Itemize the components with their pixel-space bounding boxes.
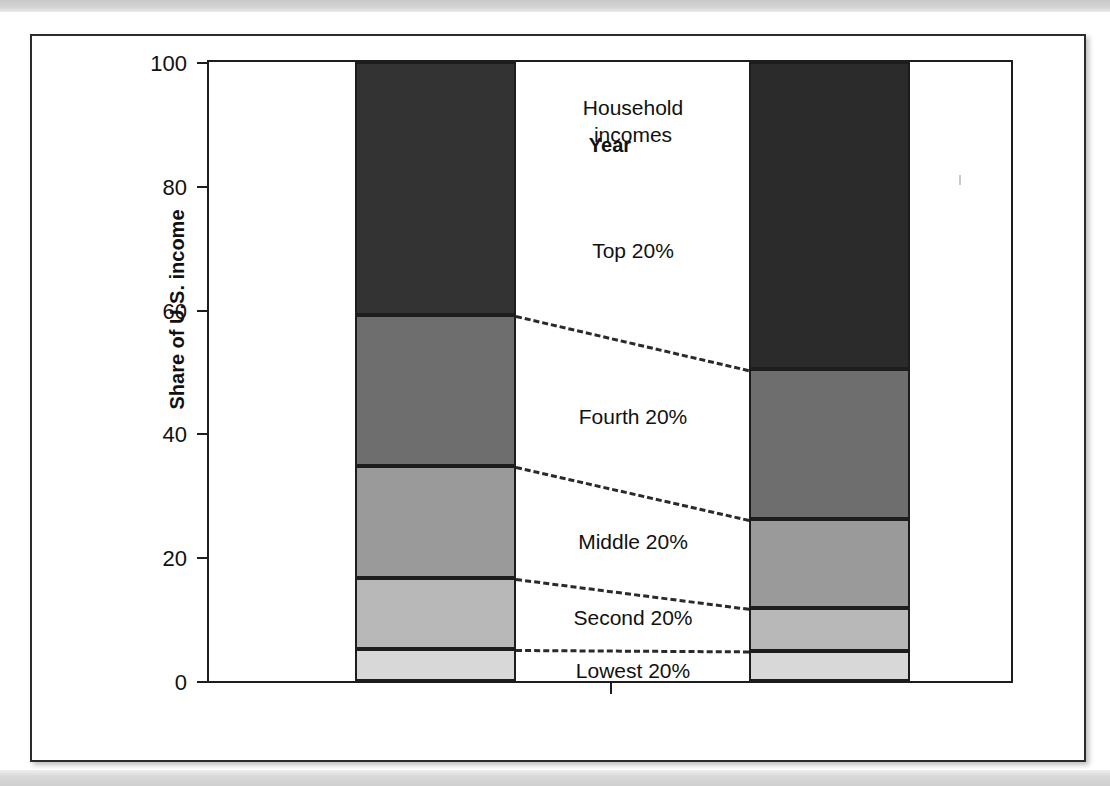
y-tick-label-0: 0 (175, 670, 187, 696)
bar-1980-segment-lowest20[interactable] (355, 649, 516, 681)
y-tick-label-100: 100 (150, 51, 187, 77)
bar-2011-segment-lowest20[interactable] (749, 651, 910, 681)
y-tick-label-40: 40 (163, 422, 187, 448)
connector-top20-boundary (516, 315, 749, 372)
y-tick-60: 60 (197, 310, 209, 312)
bar-1980-segment-middle20[interactable] (355, 466, 516, 578)
band-label-middle20: Middle 20% (578, 529, 688, 556)
bar-2011-segment-top20[interactable] (749, 62, 910, 369)
y-tick-40: 40 (197, 433, 209, 435)
band-label-lowest20: Lowest 20% (576, 658, 690, 685)
figure-container: 100 80 60 40 20 0 Share of U.S. income 1… (30, 34, 1086, 762)
bar-1980-segment-second20[interactable] (355, 578, 516, 649)
y-tick-20: 20 (197, 557, 209, 559)
chart-inline-title-line1: Household (583, 95, 683, 122)
bar-1980[interactable] (355, 62, 516, 681)
y-tick-label-80: 80 (163, 175, 187, 201)
bar-2011[interactable] (749, 62, 910, 681)
band-label-fourth20: Fourth 20% (579, 404, 688, 431)
band-label-top20: Top 20% (592, 238, 674, 265)
y-axis-title: Share of U.S. income (166, 209, 189, 409)
connector-second20-boundary (516, 649, 749, 653)
y-tick-100: 100 (197, 62, 209, 64)
band-label-second20: Second 20% (573, 605, 692, 632)
page-header-band (0, 0, 1110, 12)
page-footer-band (0, 770, 1110, 786)
connector-fourth20-boundary (516, 466, 750, 522)
bar-1980-segment-top20[interactable] (355, 62, 516, 315)
bar-2011-segment-second20[interactable] (749, 608, 910, 651)
y-tick-80: 80 (197, 186, 209, 188)
y-tick-label-20: 20 (163, 546, 187, 572)
plot-area: 100 80 60 40 20 0 Share of U.S. income 1… (207, 60, 1013, 683)
scan-speck (959, 175, 961, 185)
chart-inline-title-line2: incomes (583, 122, 683, 149)
chart-inline-title: Household incomes (583, 95, 683, 149)
bar-1980-segment-fourth20[interactable] (355, 315, 516, 466)
y-tick-0: 0 (197, 681, 209, 683)
bar-2011-segment-middle20[interactable] (749, 519, 910, 608)
bar-2011-segment-fourth20[interactable] (749, 369, 910, 519)
